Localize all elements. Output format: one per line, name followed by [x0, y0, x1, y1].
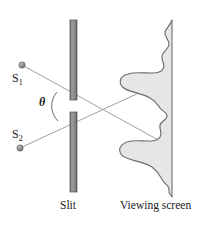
source-2-dot: [17, 145, 23, 151]
barrier-lower-bar: [70, 112, 77, 192]
angle-theta-label: θ: [39, 96, 45, 108]
viewing-screen-caption: Viewing screen: [120, 200, 191, 212]
source-1-dot: [19, 62, 25, 68]
source-2-label: S2: [12, 128, 23, 143]
source-1-label: S1: [12, 72, 23, 87]
barrier-upper-bar: [70, 20, 77, 100]
slit-caption: Slit: [60, 200, 76, 212]
